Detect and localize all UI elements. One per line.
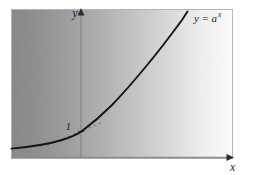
curve-label-y: y bbox=[193, 12, 199, 24]
exponential-function-figure: y x 1 y = a x bbox=[0, 0, 261, 175]
y-intercept-tick-label: 1 bbox=[66, 121, 71, 132]
plot-background-grain bbox=[12, 10, 233, 159]
curve-label-exponent: x bbox=[217, 10, 222, 19]
x-axis-label: x bbox=[229, 161, 236, 173]
y-axis-label: y bbox=[72, 7, 79, 20]
curve-label-base: a bbox=[212, 12, 218, 24]
curve-label-equals: = bbox=[202, 12, 209, 24]
